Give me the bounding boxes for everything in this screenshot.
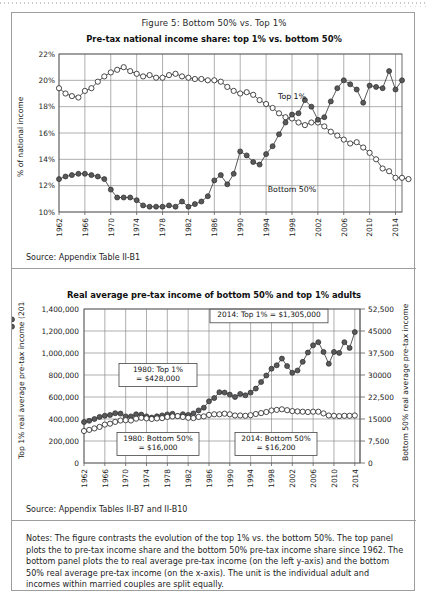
top-data-point xyxy=(231,171,236,176)
bottom-data-point xyxy=(311,409,316,414)
bottom-data-point xyxy=(92,417,97,422)
top-data-point xyxy=(328,129,333,134)
bottom-data-point xyxy=(279,407,284,412)
bottom-panel-svg: 0200,000400,000600,000800,0001,000,0001,… xyxy=(12,301,416,503)
bottom-data-point xyxy=(128,418,133,423)
top-y-tick: 16% xyxy=(39,129,55,138)
top-x-tick: 1998 xyxy=(288,218,297,237)
bottom-data-point xyxy=(108,413,113,418)
annotation-1980-top1: 1980: Top 1%= $428,000 xyxy=(119,363,197,386)
bottom-data-point xyxy=(160,416,165,421)
bottom-y-tick-right: 0 xyxy=(368,459,373,468)
bottom-data-point xyxy=(82,420,87,425)
bottom-data-point xyxy=(342,340,347,345)
bottom-data-point xyxy=(206,412,211,417)
top-data-point xyxy=(225,84,230,89)
bottom-data-point xyxy=(149,416,154,421)
bottom-data-point xyxy=(97,424,102,429)
top-data-point xyxy=(264,101,269,106)
bottom-data-point xyxy=(290,409,295,414)
bottom-data-point xyxy=(207,399,212,404)
bottom-data-point xyxy=(227,392,232,397)
bottom-y-tick-left: 400,000 xyxy=(48,415,79,424)
bottom-y-tick-right: 45000 xyxy=(368,327,392,336)
top-data-point xyxy=(63,91,68,96)
top-data-point xyxy=(283,120,288,125)
bottom-data-point xyxy=(232,413,237,418)
top-x-tick: 2002 xyxy=(314,218,323,237)
top-data-point xyxy=(341,78,346,83)
bottom-x-tick: 1966 xyxy=(101,469,110,488)
annotation-text: = $16,200 xyxy=(256,443,295,452)
top-data-point xyxy=(95,79,100,84)
top-x-tick: 1970 xyxy=(107,218,116,237)
bottom-x-tick: 1970 xyxy=(121,469,130,488)
top-data-point xyxy=(56,86,61,91)
bottom-data-point xyxy=(222,411,227,416)
annotation-text: 1980: Bottom 50% xyxy=(123,434,193,443)
top-x-tick: 1978 xyxy=(158,218,167,237)
figure-page: Figure 5: Bottom 50% vs. Top 1% Pre-tax … xyxy=(0,0,427,604)
bottom-data-point xyxy=(196,408,201,413)
bottom-data-point xyxy=(144,416,149,421)
bottom-x-tick: 1978 xyxy=(163,469,172,488)
bottom-data-point xyxy=(248,413,253,418)
bottom-data-point xyxy=(212,396,217,401)
bottom-data-point xyxy=(222,390,227,395)
top-y-tick: 12% xyxy=(39,181,55,190)
annotation-1980-bottom50: 1980: Bottom 50%= $16,000 xyxy=(117,432,199,455)
bottom-x-tick: 2010 xyxy=(330,469,339,488)
bottom-data-point xyxy=(165,414,170,419)
top-data-point xyxy=(218,173,223,178)
bottom-data-point xyxy=(92,426,97,431)
top-data-point xyxy=(102,74,107,79)
top-data-point xyxy=(348,141,353,146)
bottom-y-axis-label-left: Top 1% real average pre-tax income (2014… xyxy=(17,301,26,460)
bottom-y-tick-right: 52,500 xyxy=(368,305,394,314)
bottom-y-tick-left: 800,000 xyxy=(48,371,79,380)
top-data-point xyxy=(309,120,314,125)
bottom-y-tick-right: 30000 xyxy=(368,371,392,380)
top-data-point xyxy=(115,195,120,200)
bottom-data-point xyxy=(12,317,15,322)
top-data-point xyxy=(361,145,366,150)
top-data-point xyxy=(309,104,314,109)
bottom-data-point xyxy=(321,411,326,416)
top-data-point xyxy=(115,67,120,72)
bottom-data-point xyxy=(342,413,347,418)
top-data-point xyxy=(121,65,126,70)
top-data-point xyxy=(270,144,275,149)
bottom-data-point xyxy=(269,408,274,413)
top-x-tick: 1982 xyxy=(184,218,193,237)
top-data-point xyxy=(186,75,191,80)
bottom-data-point xyxy=(243,413,248,418)
bottom-data-point xyxy=(279,356,284,361)
bottom-data-point xyxy=(347,413,352,418)
top-data-point xyxy=(69,173,74,178)
top-data-point xyxy=(400,78,405,83)
top-data-point xyxy=(380,86,385,91)
top-data-point xyxy=(231,88,236,93)
bottom-data-point xyxy=(269,366,274,371)
top-data-point xyxy=(251,160,256,165)
bottom-panel-title: Real average pre-tax income of bottom 50… xyxy=(12,290,416,300)
bottom-data-point xyxy=(352,413,357,418)
top-y-tick: 18% xyxy=(39,102,55,111)
top-data-point xyxy=(251,92,256,97)
bottom-data-point xyxy=(201,414,206,419)
top-data-point xyxy=(199,76,204,81)
top-x-tick: 1966 xyxy=(81,218,90,237)
top-panel-title: Pre-tax national income share: top 1% vs… xyxy=(12,34,416,44)
top-data-point xyxy=(277,132,282,137)
top-series-label-top1: Top 1% xyxy=(277,92,306,101)
bottom-y-tick-right: 37,500 xyxy=(368,349,394,358)
bottom-data-point xyxy=(238,391,243,396)
bottom-data-point xyxy=(274,363,279,368)
top-data-point xyxy=(225,182,230,187)
top-x-tick: 1986 xyxy=(210,218,219,237)
top-data-point xyxy=(108,70,113,75)
top-x-tick: 1974 xyxy=(132,218,141,237)
bottom-data-point xyxy=(113,419,118,424)
bottom-y-tick-left: 0 xyxy=(74,459,79,468)
top-y-tick: 10% xyxy=(39,208,55,217)
